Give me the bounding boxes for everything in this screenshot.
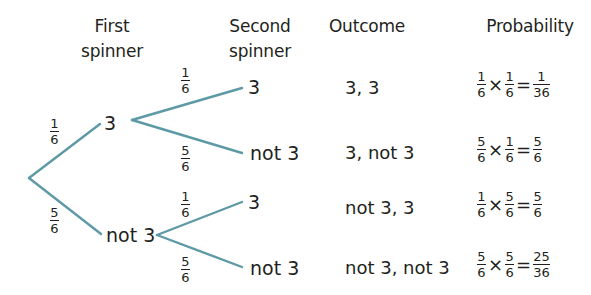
denominator: 6 [534, 206, 542, 219]
factor-b: 16 [505, 135, 514, 164]
denominator: 6 [477, 206, 485, 219]
node-second-not3-not3: not 3 [250, 258, 299, 278]
node-first-not3: not 3 [106, 225, 155, 245]
branch-prob-first-3: 16 [50, 117, 59, 146]
probability-row-4: 56 × 56 = 2536 [477, 250, 550, 279]
result: 56 [533, 135, 542, 164]
branch-not3-to-not3 [157, 235, 242, 267]
numerator: 1 [181, 66, 189, 79]
denominator: 6 [181, 271, 189, 284]
numerator: 1 [50, 117, 58, 130]
denominator: 6 [477, 151, 485, 164]
numerator: 1 [505, 135, 513, 148]
numerator: 1 [181, 190, 189, 203]
numerator: 1 [505, 70, 513, 83]
factor-a: 56 [477, 250, 486, 279]
factor-b: 56 [505, 250, 514, 279]
branch-prob-second-3-not3: 56 [181, 144, 190, 173]
denominator: 6 [181, 82, 189, 95]
branch-prob-second-not3-3: 16 [181, 190, 190, 219]
denominator: 36 [533, 86, 550, 99]
probability-row-3: 16 × 56 = 56 [477, 190, 542, 219]
branch-prob-second-not3-not3: 56 [181, 255, 190, 284]
times-symbol: × [488, 194, 503, 215]
denominator: 6 [505, 151, 513, 164]
denominator: 6 [534, 151, 542, 164]
denominator: 6 [50, 133, 58, 146]
result: 136 [533, 70, 550, 99]
branch-prob-first-not3: 56 [50, 206, 59, 235]
equals-symbol: = [516, 139, 531, 160]
node-second-3-3: 3 [248, 77, 260, 97]
outcome-row-4: not 3, not 3 [345, 258, 450, 278]
outcome-row-3: not 3, 3 [345, 198, 415, 218]
outcome-row-1: 3, 3 [345, 78, 379, 98]
numerator: 5 [50, 206, 58, 219]
numerator: 5 [181, 144, 189, 157]
numerator: 1 [477, 70, 485, 83]
factor-b: 56 [505, 190, 514, 219]
factor-a: 56 [477, 135, 486, 164]
numerator: 5 [534, 190, 542, 203]
denominator: 36 [533, 266, 550, 279]
numerator: 5 [534, 135, 542, 148]
denominator: 6 [505, 86, 513, 99]
node-second-not3-3: 3 [248, 192, 260, 212]
branch-prob-second-3-3: 16 [181, 66, 190, 95]
factor-b: 16 [505, 70, 514, 99]
numerator: 5 [181, 255, 189, 268]
times-symbol: × [488, 139, 503, 160]
factor-a: 16 [477, 70, 486, 99]
equals-symbol: = [516, 194, 531, 215]
node-second-3-not3: not 3 [250, 143, 299, 163]
branch-root-to-3 [29, 124, 100, 178]
numerator: 1 [477, 190, 485, 203]
numerator: 5 [477, 250, 485, 263]
probability-row-1: 16 × 16 = 136 [477, 70, 550, 99]
outcome-row-2: 3, not 3 [345, 143, 415, 163]
equals-symbol: = [516, 254, 531, 275]
node-first-3: 3 [104, 113, 116, 133]
result: 2536 [533, 250, 550, 279]
numerator: 5 [505, 190, 513, 203]
times-symbol: × [488, 254, 503, 275]
equals-symbol: = [516, 74, 531, 95]
denominator: 6 [181, 206, 189, 219]
numerator: 5 [505, 250, 513, 263]
denominator: 6 [477, 86, 485, 99]
denominator: 6 [505, 266, 513, 279]
numerator: 5 [477, 135, 485, 148]
branch-root-to-not3 [29, 178, 101, 234]
numerator: 25 [533, 250, 550, 263]
probability-row-2: 56 × 16 = 56 [477, 135, 542, 164]
denominator: 6 [505, 206, 513, 219]
times-symbol: × [488, 74, 503, 95]
denominator: 6 [477, 266, 485, 279]
result: 56 [533, 190, 542, 219]
denominator: 6 [50, 222, 58, 235]
factor-a: 16 [477, 190, 486, 219]
branch-not3-to-3 [157, 202, 242, 235]
numerator: 1 [537, 70, 545, 83]
denominator: 6 [181, 160, 189, 173]
